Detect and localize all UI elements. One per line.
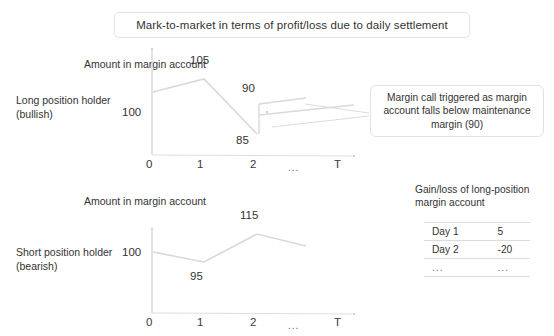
table-row: ... ...	[424, 259, 530, 277]
short-chart-xtick-2: 2	[250, 316, 256, 328]
post-call-marker-icon	[266, 111, 268, 113]
short-chart-value-115: 115	[240, 209, 258, 221]
long-position-row-label: Long position holder (bullish)	[16, 93, 136, 121]
table-cell-day-value: -20	[476, 241, 530, 259]
margin-call-callout: Margin call triggered as margin account …	[370, 85, 544, 137]
short-chart-value-95: 95	[190, 270, 203, 282]
gain-loss-caption-line2: margin account	[415, 196, 554, 209]
table-row: Day 1 5	[424, 223, 530, 241]
table-cell-day-label: Day 1	[424, 223, 476, 241]
short-chart-start-value: 100	[122, 246, 141, 258]
short-chart-xtick-0: 0	[146, 316, 152, 328]
long-chart-value-90: 90	[242, 82, 255, 94]
x-axis-line	[152, 155, 354, 156]
long-chart-xtick-T: T	[334, 158, 341, 170]
short-position-label-line2: (bearish)	[16, 259, 141, 273]
x-axis-arrow-icon	[353, 155, 355, 157]
long-chart-value-105: 105	[190, 54, 209, 66]
table-row: Day 2 -20	[424, 241, 530, 259]
x-axis-arrow-icon	[353, 313, 355, 315]
short-chart-xtick-ellipsis: ...	[288, 320, 299, 331]
long-chart-xtick-2: 2	[250, 158, 256, 170]
long-position-chart: 105 90 85 0 1 2 ... T	[140, 42, 360, 162]
post-call-upper-branch	[259, 98, 306, 104]
long-chart-xtick-0: 0	[146, 158, 152, 170]
margin-call-callout-text: Margin call triggered as margin account …	[377, 91, 537, 132]
table-cell-day-label: Day 2	[424, 241, 476, 259]
long-position-label-line2: (bullish)	[16, 107, 136, 121]
long-chart-start-value: 100	[122, 106, 141, 118]
gain-loss-table-caption: Gain/loss of long-position margin accoun…	[415, 183, 554, 209]
long-chart-xtick-1: 1	[197, 158, 203, 170]
gain-loss-caption-line1: Gain/loss of long-position	[415, 183, 554, 196]
y-axis-arrow-icon	[151, 48, 153, 50]
gain-loss-table: Day 1 5 Day 2 -20 ... ...	[424, 222, 530, 277]
long-chart-xtick-ellipsis: ...	[288, 162, 299, 173]
short-position-chart: 115 95 0 1 2 ... T	[140, 200, 360, 320]
short-chart-xtick-1: 1	[197, 316, 203, 328]
page-title: Mark-to-market in terms of profit/loss d…	[136, 19, 448, 31]
short-position-data-line	[153, 234, 306, 262]
table-cell-day-value: ...	[476, 259, 530, 277]
y-axis-arrow-icon	[151, 228, 153, 230]
page-title-box: Mark-to-market in terms of profit/loss d…	[114, 12, 470, 38]
long-chart-value-85: 85	[236, 134, 249, 146]
table-cell-day-label: ...	[424, 259, 476, 277]
short-chart-xtick-T: T	[334, 316, 341, 328]
long-position-label-line1: Long position holder	[16, 93, 136, 107]
x-axis-line	[152, 313, 354, 314]
post-call-lower-branch	[259, 105, 354, 115]
table-cell-day-value: 5	[476, 223, 530, 241]
long-position-chart-svg	[140, 42, 360, 162]
